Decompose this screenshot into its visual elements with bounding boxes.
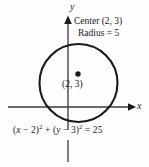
circle-equation: (x − 2)2 + (y − 3)2 = 25 [13,124,103,136]
equation-equals-operator: = [82,125,92,135]
y-axis-label: y [70,2,74,12]
circle-diagram-figure: y x Center (2, 3) Radius = 5 (2, 3) (x −… [0,0,149,167]
center-point-coordinate-label: (2, 3) [62,80,83,90]
radius-annotation-label: Radius = 5 [78,29,119,39]
center-annotation-label: Center (2, 3) [74,17,122,27]
x-axis-arrowhead-icon [128,103,136,111]
equation-y-term: − 3) [61,125,80,135]
equation-x-term: − 2) [21,125,40,135]
equation-right-hand-side: 25 [93,125,103,135]
y-axis-arrowhead-icon [64,16,72,25]
equation-plus-operator: + [42,125,52,135]
center-point-dot [75,71,80,76]
x-axis-label: x [137,101,141,111]
